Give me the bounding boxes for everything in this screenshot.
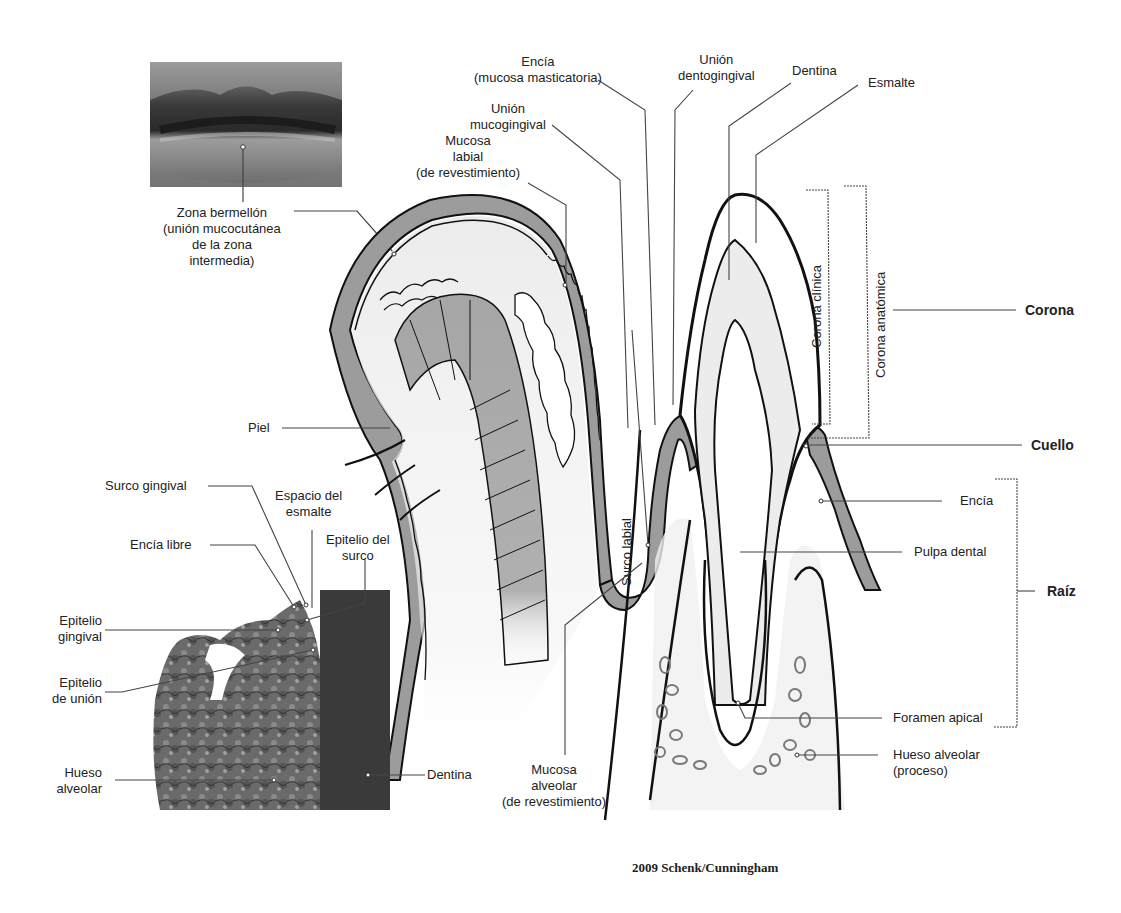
label-line: Mucosa	[502, 762, 606, 778]
label-line: Unión	[678, 52, 755, 68]
label-line: de la zona	[163, 237, 281, 253]
histology-photo	[153, 590, 390, 810]
label-mucosa-labial: Mucosa labial (de revestimiento)	[416, 133, 520, 181]
label-line: Hueso	[45, 765, 102, 781]
label-dentina-left: Dentina	[427, 767, 472, 783]
label-encia-libre: Encía libre	[130, 537, 191, 553]
label-line: Hueso alveolar	[893, 747, 980, 763]
label-union-dentogingival: Unión dentogingival	[678, 52, 755, 84]
label-dentina-top: Dentina	[792, 63, 837, 79]
label-encia-masticatoria: Encía (mucosa masticatoria)	[474, 54, 602, 86]
label-corona: Corona	[1025, 302, 1074, 318]
label-zona-bermellon: Zona bermellón (unión mucocutánea de la …	[163, 205, 281, 269]
label-line: Epitelio	[48, 613, 102, 629]
label-corona-anatomica: Corona anatómica	[873, 272, 888, 378]
label-line: Zona bermellón	[163, 205, 281, 221]
label-line: intermedia)	[163, 253, 281, 269]
label-espacio-esmalte: Espacio del esmalte	[275, 488, 342, 520]
label-line: alveolar	[45, 781, 102, 797]
label-epitelio-gingival: Epitelio gingival	[48, 613, 102, 645]
label-line: esmalte	[275, 504, 342, 520]
label-line: Mucosa	[416, 133, 520, 149]
label-line: surco	[326, 548, 390, 564]
label-line: (de revestimiento)	[502, 794, 606, 810]
label-line: (de revestimiento)	[416, 165, 520, 181]
label-corona-clinica: Corona clínica	[809, 265, 824, 348]
label-epitelio-union: Epitelio de unión	[40, 675, 102, 707]
label-epitelio-surco: Epitelio del surco	[326, 532, 390, 564]
label-mucosa-alveolar: Mucosa alveolar (de revestimiento)	[502, 762, 606, 810]
label-line: Unión	[470, 101, 546, 117]
label-line: de unión	[40, 691, 102, 707]
label-cuello: Cuello	[1031, 437, 1074, 453]
label-line: Encía	[474, 54, 602, 70]
label-esmalte: Esmalte	[868, 75, 915, 91]
label-surco-labial: Surco labial	[619, 518, 634, 586]
label-line: gingival	[48, 629, 102, 645]
label-line: (proceso)	[893, 763, 980, 779]
label-encia-right: Encía	[960, 493, 993, 509]
figure-credit: 2009 Schenk/Cunningham	[632, 860, 778, 876]
label-line: (unión mucocutánea	[163, 221, 281, 237]
label-line: Epitelio	[40, 675, 102, 691]
label-line: Espacio del	[275, 488, 342, 504]
label-hueso-alveolar-right: Hueso alveolar (proceso)	[893, 747, 980, 779]
label-line: labial	[416, 149, 520, 165]
label-line: alveolar	[502, 778, 606, 794]
label-pulpa-dental: Pulpa dental	[914, 544, 986, 560]
label-surco-gingival: Surco gingival	[105, 478, 187, 494]
label-union-mucogingival: Unión mucogingival	[470, 101, 546, 133]
label-raiz: Raíz	[1047, 583, 1076, 599]
label-line: Epitelio del	[326, 532, 390, 548]
label-line: dentogingival	[678, 68, 755, 84]
label-line: (mucosa masticatoria)	[474, 70, 602, 86]
lips-photo	[150, 62, 342, 187]
label-piel: Piel	[248, 420, 270, 436]
label-foramen-apical: Foramen apical	[893, 710, 983, 726]
label-hueso-alveolar-left: Hueso alveolar	[45, 765, 102, 797]
label-line: mucogingival	[470, 117, 546, 133]
